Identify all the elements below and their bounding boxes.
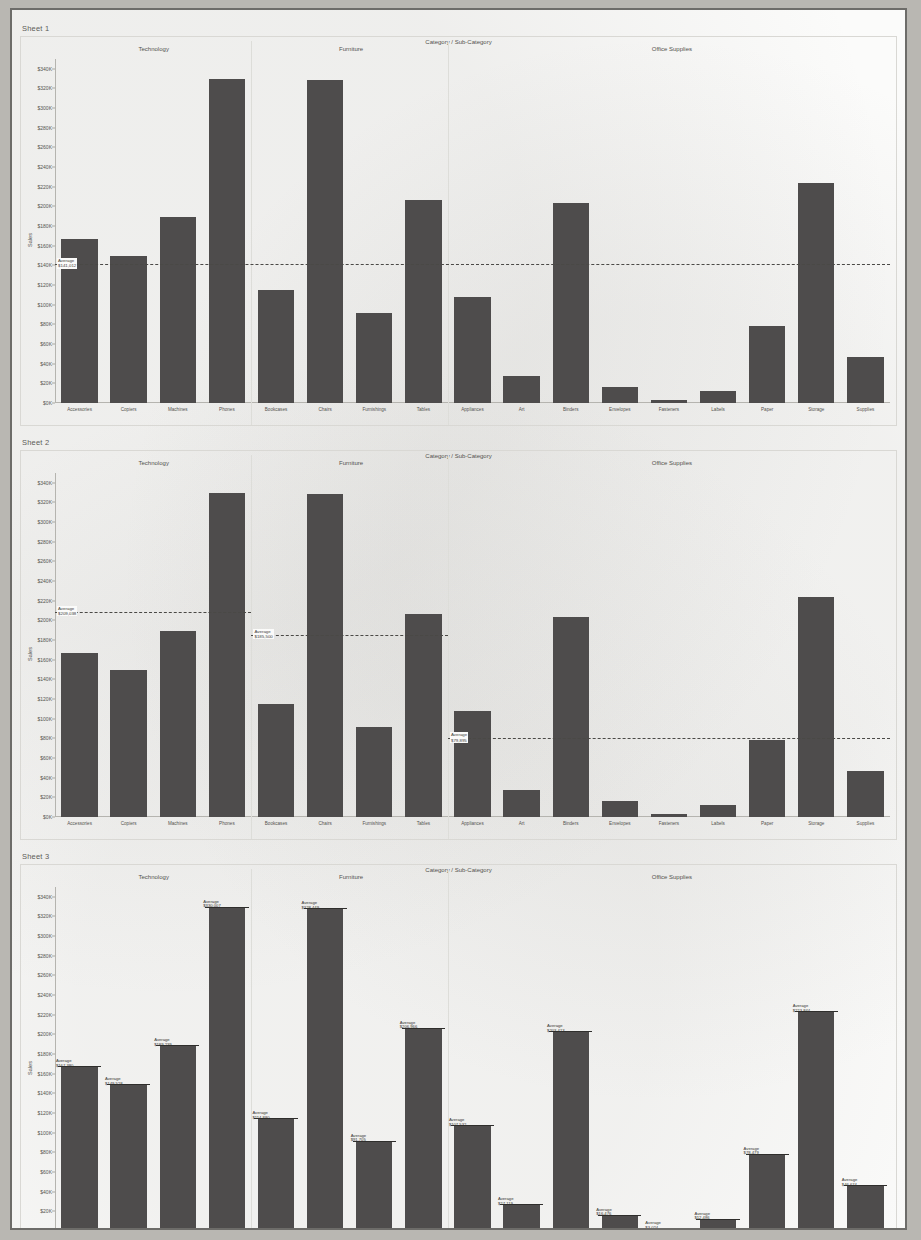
- bar[interactable]: [110, 670, 146, 817]
- worksheet-2[interactable]: Sheet 2Category / Sub-CategoryTechnology…: [12, 434, 905, 844]
- bar-slot[interactable]: Paper: [743, 473, 792, 817]
- reference-line[interactable]: Average$167,380: [58, 1066, 101, 1067]
- bar-slot[interactable]: Supplies: [841, 59, 890, 403]
- reference-line[interactable]: Average$206,966: [402, 1028, 445, 1029]
- bar-slot[interactable]: Furnishings: [350, 473, 399, 817]
- bar[interactable]: [749, 740, 785, 817]
- bar[interactable]: [405, 614, 441, 817]
- x-axis-tick-label: Copiers: [121, 821, 137, 826]
- bar[interactable]: [651, 400, 687, 403]
- bar[interactable]: [258, 704, 294, 817]
- bar-slot[interactable]: Fasteners: [644, 473, 693, 817]
- bar[interactable]: [602, 801, 638, 817]
- y-axis-tick-label: $180K: [38, 223, 52, 229]
- reference-line[interactable]: Average$27,119: [500, 1204, 543, 1205]
- bar-slot[interactable]: Furnishings: [350, 59, 399, 403]
- bar-slot[interactable]: Binders: [546, 473, 595, 817]
- bar-slot[interactable]: Tables: [399, 473, 448, 817]
- bar[interactable]: [798, 597, 834, 817]
- reference-line[interactable]: Average$107,532: [451, 1125, 494, 1126]
- reference-line[interactable]: Average$223,844: [795, 1011, 838, 1012]
- y-axis-tick-label: $160K: [38, 1071, 52, 1077]
- bar[interactable]: [700, 391, 736, 403]
- bar[interactable]: [503, 790, 539, 817]
- bar[interactable]: [847, 771, 883, 817]
- bar-slot[interactable]: Copiers: [104, 59, 153, 403]
- bar[interactable]: [651, 814, 687, 817]
- bar-slot[interactable]: Machines: [153, 473, 202, 817]
- reference-line[interactable]: Average$46,674: [844, 1185, 887, 1186]
- plot-region: Sales$0K$20K$40K$60K$80K$100K$120K$140K$…: [21, 55, 896, 425]
- reference-line[interactable]: Average$79,895: [448, 738, 890, 739]
- reference-line[interactable]: Average$3,024: [647, 1228, 690, 1229]
- bar[interactable]: [209, 79, 245, 403]
- bar-slot[interactable]: Bookcases: [251, 473, 300, 817]
- y-axis-tick-label: $200K: [38, 617, 52, 623]
- bar[interactable]: [209, 493, 245, 817]
- bar-slot[interactable]: Envelopes: [595, 473, 644, 817]
- bar[interactable]: [61, 653, 97, 818]
- bar-slot[interactable]: Paper: [743, 59, 792, 403]
- reference-line[interactable]: Average$189,239: [156, 1045, 199, 1046]
- bar-slot[interactable]: Chairs: [301, 473, 350, 817]
- reference-line-label: Average$167,380: [56, 1059, 73, 1068]
- bar[interactable]: [356, 313, 392, 403]
- bar[interactable]: [602, 387, 638, 403]
- bar[interactable]: [847, 357, 883, 403]
- reference-line[interactable]: Average$141,012: [55, 264, 890, 265]
- reference-line[interactable]: Average$114,880: [254, 1118, 297, 1119]
- bar[interactable]: [553, 203, 589, 403]
- bar[interactable]: [258, 290, 294, 403]
- bar-slot[interactable]: Copiers: [104, 473, 153, 817]
- bar-slot[interactable]: Storage: [792, 59, 841, 403]
- bar[interactable]: [798, 183, 834, 403]
- reference-line[interactable]: Average$91,705: [353, 1141, 396, 1142]
- y-axis-tick-label: $340K: [38, 480, 52, 486]
- bar-slot[interactable]: Machines: [153, 59, 202, 403]
- bar[interactable]: [651, 1228, 687, 1230]
- bar[interactable]: [454, 711, 490, 817]
- bar[interactable]: [160, 631, 196, 817]
- reference-line[interactable]: Average$149,528: [107, 1084, 150, 1085]
- bar[interactable]: [503, 376, 539, 403]
- reference-line-value: $189,239: [154, 1043, 171, 1048]
- worksheet-1[interactable]: Sheet 1Category / Sub-CategoryTechnology…: [12, 20, 905, 430]
- bar[interactable]: [160, 217, 196, 403]
- bar-slot[interactable]: Fasteners: [644, 59, 693, 403]
- bar-slot[interactable]: Appliances: [448, 473, 497, 817]
- bar[interactable]: [700, 805, 736, 817]
- bar[interactable]: [307, 80, 343, 403]
- reference-line[interactable]: Average$185,500: [251, 635, 447, 636]
- bar[interactable]: [356, 727, 392, 817]
- bar[interactable]: [749, 326, 785, 403]
- bar-slot[interactable]: Binders: [546, 59, 595, 403]
- bar[interactable]: [405, 200, 441, 403]
- bar-slot[interactable]: Accessories: [55, 473, 104, 817]
- bar[interactable]: [553, 617, 589, 817]
- bar-slot[interactable]: Art: [497, 473, 546, 817]
- bar-slot[interactable]: Phones: [202, 59, 251, 403]
- reference-line[interactable]: Average$203,413: [549, 1031, 592, 1032]
- reference-line[interactable]: Average$16,476: [598, 1215, 641, 1216]
- bar[interactable]: [454, 297, 490, 403]
- bar-slot[interactable]: Envelopes: [595, 59, 644, 403]
- bar-slot[interactable]: Bookcases: [251, 59, 300, 403]
- bar-slot[interactable]: Chairs: [301, 59, 350, 403]
- reference-line[interactable]: Average$78,479: [746, 1154, 789, 1155]
- bar-slot[interactable]: Storage: [792, 473, 841, 817]
- bar-slot[interactable]: Accessories: [55, 59, 104, 403]
- bar-slot[interactable]: Tables: [399, 59, 448, 403]
- bar-slot[interactable]: Labels: [694, 473, 743, 817]
- reference-line[interactable]: Average$330,007: [205, 907, 248, 908]
- bar-slot[interactable]: Supplies: [841, 473, 890, 817]
- reference-line[interactable]: Average$209,038: [55, 612, 251, 613]
- reference-line[interactable]: Average$328,449: [304, 908, 347, 909]
- bar[interactable]: [110, 256, 146, 403]
- bar-slot[interactable]: Art: [497, 59, 546, 403]
- bar-slot[interactable]: Labels: [694, 59, 743, 403]
- bar-slot[interactable]: Phones: [202, 473, 251, 817]
- bar[interactable]: [307, 494, 343, 817]
- worksheet-3[interactable]: Sheet 3Category / Sub-CategoryTechnology…: [12, 848, 905, 1230]
- bar-slot[interactable]: Appliances: [448, 59, 497, 403]
- reference-line[interactable]: Average$12,486: [696, 1219, 739, 1220]
